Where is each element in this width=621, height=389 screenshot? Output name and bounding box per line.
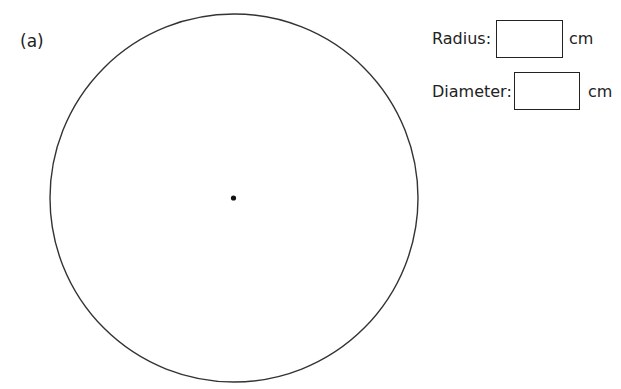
radius-label: Radius: <box>432 29 491 48</box>
diameter-label: Diameter: <box>432 82 512 101</box>
radius-unit: cm <box>569 29 593 48</box>
diameter-input[interactable] <box>514 72 580 110</box>
center-dot <box>231 195 236 200</box>
circle-figure <box>0 0 621 389</box>
radius-input[interactable] <box>496 20 563 58</box>
diameter-unit: cm <box>588 82 612 101</box>
